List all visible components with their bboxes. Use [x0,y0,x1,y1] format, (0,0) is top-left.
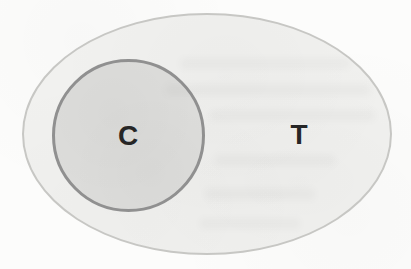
euler-diagram: C T [0,0,411,269]
outer-set-label: T [290,121,307,149]
inner-set-label: C [118,122,138,150]
